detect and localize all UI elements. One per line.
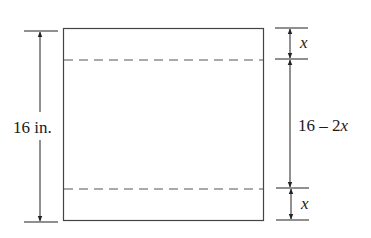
middle-label-var: x (340, 116, 349, 135)
diagram-canvas: 16 in. x 16 – 2x x (0, 0, 371, 238)
bottom-x-label: x (300, 194, 309, 213)
middle-dimension-label: 16 – 2x (298, 116, 349, 135)
right-dimensions: x 16 – 2x x (275, 28, 349, 220)
middle-label-prefix: 16 – 2 (298, 116, 341, 135)
top-x-label: x (299, 33, 308, 52)
left-dimension-label: 16 in. (13, 118, 52, 137)
left-dimension: 16 in. (13, 31, 58, 222)
sheet-rectangle (64, 29, 264, 221)
